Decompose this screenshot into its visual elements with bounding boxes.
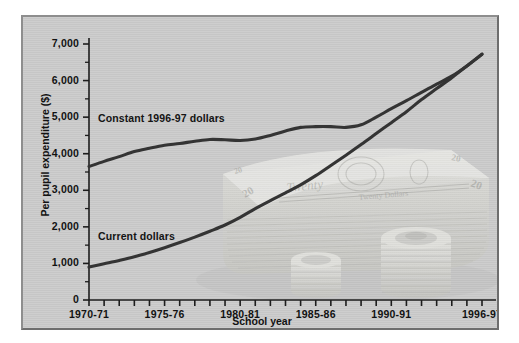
y-tick-label: 5,000 bbox=[23, 110, 79, 122]
y-tick-label: 6,000 bbox=[23, 74, 79, 86]
y-axis-title: Per pupil expenditure ($) bbox=[39, 70, 51, 240]
y-tick-label: 3,000 bbox=[23, 183, 79, 195]
series-annotation: Constant 1996-97 dollars bbox=[98, 112, 225, 124]
x-axis-title: School year bbox=[23, 315, 499, 327]
chart-frame: Twenty Twenty Dollars 20 20 20 20 bbox=[21, 15, 499, 330]
y-tick-label: 4,000 bbox=[23, 147, 79, 159]
y-tick-label: 0 bbox=[23, 293, 79, 305]
series-annotation: Current dollars bbox=[98, 230, 175, 242]
plot-area bbox=[23, 17, 499, 330]
y-tick-label: 2,000 bbox=[23, 220, 79, 232]
axes bbox=[83, 38, 496, 306]
y-tick-label: 1,000 bbox=[23, 256, 79, 268]
series-line-constant-1996-97-dollars bbox=[89, 54, 482, 166]
y-tick-label: 7,000 bbox=[23, 37, 79, 49]
chart-screenshot: Twenty Twenty Dollars 20 20 20 20 bbox=[0, 0, 519, 343]
